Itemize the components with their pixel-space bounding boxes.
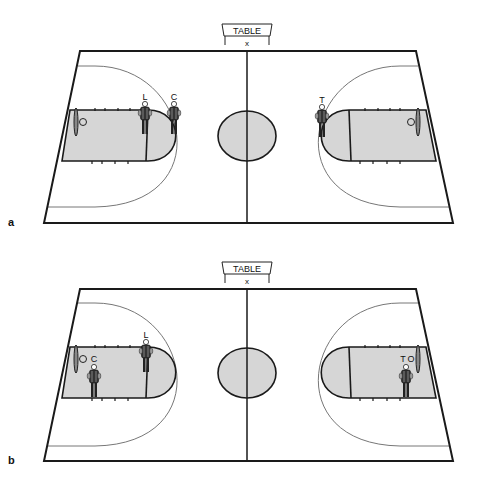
svg-text:O: O — [407, 354, 414, 364]
court-diagram: a TABLE x — [0, 0, 478, 485]
svg-text:x: x — [245, 277, 249, 286]
panel-b: b TABLE x L C — [8, 262, 453, 466]
svg-text:TABLE: TABLE — [233, 264, 261, 274]
svg-text:x: x — [245, 39, 249, 48]
svg-text:L: L — [143, 330, 148, 340]
svg-text:L: L — [142, 92, 147, 102]
key-left-a — [62, 110, 176, 161]
panel-label-a: a — [8, 216, 15, 228]
backboard-left-a — [74, 108, 78, 136]
svg-text:C: C — [171, 92, 178, 102]
scorer-table-b: TABLE x — [222, 262, 272, 286]
backboard-right-a — [416, 108, 420, 136]
key-left-b — [62, 347, 176, 398]
scorer-table-a: TABLE x — [222, 24, 272, 48]
svg-text:T: T — [319, 95, 325, 105]
panel-label-b: b — [8, 454, 15, 466]
backboard-right-b — [416, 345, 420, 373]
svg-text:T: T — [400, 354, 406, 364]
panel-a: a TABLE x — [8, 24, 453, 228]
backboard-left-b — [74, 345, 78, 373]
svg-text:C: C — [91, 354, 98, 364]
svg-text:TABLE: TABLE — [233, 26, 261, 36]
